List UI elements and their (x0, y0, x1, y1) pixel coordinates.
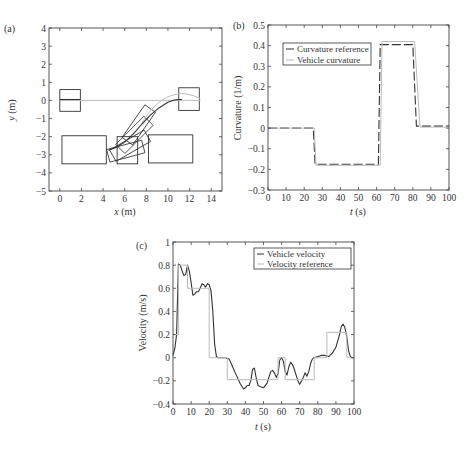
y-tick-label: 0.3 (253, 62, 265, 72)
obstacle-right (148, 135, 192, 163)
x-tick-label: 100 (442, 193, 457, 203)
legend-entry-velocity: Vehicle velocity (267, 249, 326, 259)
y-axis-unit: (m) (6, 99, 18, 116)
x-tick-label: 100 (347, 407, 362, 417)
series-velocity-reference (173, 265, 354, 380)
y-tick-label: 0 (41, 96, 46, 106)
y-tick-label: 0.5 (253, 21, 265, 31)
x-tick-label: 8 (144, 194, 149, 204)
plot-frame (49, 28, 222, 191)
legend: Vehicle velocity Velocity reference (254, 248, 351, 269)
y-tick-label: 0 (165, 353, 170, 363)
x-tick-label: 10 (281, 193, 291, 203)
y-tick-label: 0.6 (158, 284, 170, 294)
x-axis-label: x (m) (113, 206, 135, 218)
figure: (a) 02468101214 −5−4−3−2−101234 x (m) y … (0, 0, 476, 453)
plot-area (173, 264, 354, 389)
vehicle-footprint (116, 116, 153, 153)
y-tick-label: −0.3 (248, 186, 265, 196)
legend-entry-reference: Curvature reference (297, 44, 369, 54)
x-tick-label: 80 (408, 193, 418, 203)
series-vehicle-velocity (173, 264, 354, 389)
axes-frame (49, 28, 222, 191)
x-tick-label: 90 (331, 407, 341, 417)
y-tick-label: 4 (41, 24, 46, 34)
y-tick-label: −5 (36, 187, 46, 197)
x-tick-label: 0 (171, 407, 176, 417)
legend-entry-reference: Velocity reference (267, 259, 333, 269)
panel-label: (b) (233, 20, 245, 32)
y-tick-label: 0 (260, 124, 265, 134)
y-axis-label: Curvature (1/m) (232, 76, 244, 141)
x-tick-label: 30 (318, 193, 328, 203)
x-tick-label: 50 (259, 407, 269, 417)
panel-label: (a) (4, 23, 15, 35)
y-tick-label: 3 (41, 42, 46, 52)
x-tick-label: 30 (223, 407, 233, 417)
x-tick-label: 90 (426, 193, 436, 203)
y-tick-label: −1 (36, 114, 46, 124)
y-tick-label: −0.2 (153, 376, 170, 386)
y-tick-label: 0.4 (253, 41, 265, 51)
x-tick-label: 50 (354, 193, 364, 203)
y-tick-label: 2 (41, 60, 46, 70)
y-tick-label: 0.4 (158, 307, 170, 317)
x-tick-label: 2 (79, 194, 84, 204)
y-tick-label: 1 (41, 78, 46, 88)
x-axis-unit: (m) (119, 206, 136, 218)
x-tick-label: 40 (336, 193, 346, 203)
x-tick-label: 60 (372, 193, 382, 203)
vehicle-footprint (107, 140, 145, 162)
y-axis-label: y (m) (6, 99, 18, 121)
y-tick-label: −4 (36, 168, 46, 178)
x-tick-label: 4 (101, 194, 106, 204)
y-tick-label: 0.1 (253, 103, 265, 113)
x-tick-label: 70 (390, 193, 400, 203)
y-axis-label: Velocity (m/s) (137, 295, 149, 352)
x-tick-label: 70 (295, 407, 305, 417)
series-reference-curve (142, 94, 200, 123)
x-tick-label: 40 (241, 407, 251, 417)
y-tick-label: 0.8 (158, 261, 170, 271)
y-tick-label: −0.4 (153, 400, 170, 410)
legend: Curvature reference Vehicle curvature (283, 43, 371, 65)
x-tick-label: 12 (185, 194, 195, 204)
chart-trajectory: (a) 02468101214 −5−4−3−2−101234 x (m) y … (4, 23, 222, 218)
chart-velocity: (c) 0102030405060708090100 −0.4−0.200.20… (136, 238, 361, 434)
x-tick-label: 10 (186, 407, 196, 417)
y-tick-label: −2 (36, 132, 46, 142)
series-vehicle-path (109, 100, 183, 151)
plot-area (60, 88, 201, 164)
x-tick-label: 80 (313, 407, 323, 417)
x-tick-label: 20 (204, 407, 214, 417)
x-tick-label: 20 (299, 193, 309, 203)
y-tick-label: −0.2 (248, 165, 265, 175)
x-axis-unit: (s) (353, 206, 366, 218)
chart-curvature: (b) 0102030405060708090100 −0.3−0.2−0.10… (232, 20, 456, 218)
panel-label: (c) (136, 240, 147, 252)
x-tick-label: 60 (277, 407, 287, 417)
y-tick-label: −3 (36, 150, 46, 160)
y-tick-label: 1 (165, 238, 170, 248)
x-axis-label: t (s) (350, 206, 366, 218)
x-tick-label: 0 (266, 193, 271, 203)
y-tick-label: −0.1 (248, 144, 265, 154)
y-tick-label: 0.2 (253, 82, 265, 92)
y-tick-label: 0.2 (158, 330, 170, 340)
x-tick-label: 0 (57, 194, 62, 204)
x-tick-label: 10 (163, 194, 173, 204)
x-axis-unit: (s) (258, 421, 271, 433)
obstacle-left (62, 136, 106, 164)
legend-entry-vehicle: Vehicle curvature (297, 55, 360, 65)
x-axis-label: t (s) (255, 421, 271, 433)
x-tick-label: 14 (206, 194, 216, 204)
x-tick-label: 6 (122, 194, 127, 204)
